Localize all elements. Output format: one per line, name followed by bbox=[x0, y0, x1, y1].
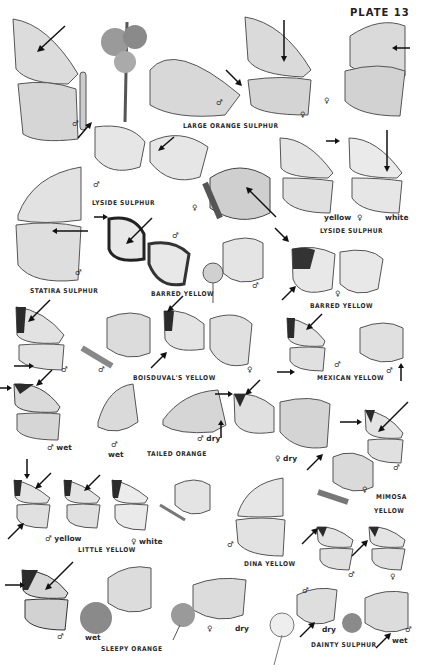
arrow-indicator bbox=[326, 138, 340, 144]
form-note: wet bbox=[85, 633, 101, 642]
butterfly-little-yellow-female bbox=[110, 478, 155, 530]
butterfly-little-yellow-side bbox=[160, 475, 212, 520]
butterfly-mexican-yellow-male-2 bbox=[345, 318, 405, 368]
arrow-indicator bbox=[158, 137, 174, 151]
butterfly-statira-sulphur bbox=[13, 165, 83, 285]
sex-note: ♂ bbox=[57, 632, 64, 641]
arrow-indicator bbox=[94, 214, 108, 220]
sex-note: ♂ bbox=[111, 440, 118, 449]
butterfly-large-orange-sulphur-female-2 bbox=[320, 16, 410, 116]
species-label-mexican-yellow: MEXICAN YELLOW bbox=[317, 374, 384, 382]
butterfly-sleepy-orange-wet bbox=[78, 563, 153, 638]
sex-note: ♀ bbox=[247, 365, 253, 374]
species-label-large-orange-sulphur: LARGE ORANGE SULPHUR bbox=[183, 122, 279, 130]
sex-form-note: ♀ dry bbox=[275, 454, 297, 463]
arrow-indicator bbox=[151, 352, 167, 368]
arrow-indicator bbox=[37, 26, 65, 52]
butterfly-dainty-sulphur-wet bbox=[340, 588, 410, 643]
arrow-indicator bbox=[28, 300, 50, 322]
arrow-indicator bbox=[245, 380, 260, 395]
arrow-indicator bbox=[24, 459, 30, 479]
arrow-indicator bbox=[0, 385, 12, 391]
arrow-indicator bbox=[282, 286, 296, 300]
sex-note: ♂ bbox=[216, 98, 223, 107]
arrow-indicator bbox=[52, 228, 88, 234]
species-label-lyside-sulphur: LYSIDE SULPHUR bbox=[320, 227, 383, 235]
sex-note: ♂ bbox=[348, 570, 355, 579]
arrow-indicator bbox=[376, 633, 391, 648]
sex-note: ♂ bbox=[72, 119, 79, 128]
sex-note: ♂ bbox=[75, 268, 82, 277]
arrow-indicator bbox=[384, 130, 390, 172]
butterfly-dainty-sulphur-female bbox=[367, 525, 409, 570]
species-label-statira-sulphur: STATIRA SULPHUR bbox=[30, 287, 98, 295]
arrow-indicator bbox=[8, 523, 24, 539]
arrow-indicator bbox=[398, 363, 404, 381]
arrow-indicator bbox=[340, 419, 362, 425]
sex-form-note: ♂ yellow bbox=[45, 534, 82, 543]
sex-note: ♀ bbox=[207, 624, 213, 633]
species-label-lyside-sulphur: LYSIDE SULPHUR bbox=[92, 199, 155, 207]
sex-note: ♂ bbox=[252, 281, 259, 290]
butterfly-boisduvals-wet-1 bbox=[12, 382, 74, 442]
butterfly-lyside-sulphur-male bbox=[90, 122, 210, 192]
sex-note: ♀ bbox=[357, 213, 363, 222]
arrow-indicator bbox=[126, 218, 152, 244]
arrow-indicator bbox=[302, 528, 318, 544]
sex-note: ♂ bbox=[61, 365, 68, 374]
sex-form-note: ♂ wet bbox=[47, 443, 72, 452]
sex-note: ♂ bbox=[334, 360, 341, 369]
arrow-indicator bbox=[277, 369, 295, 375]
arrow-indicator bbox=[246, 187, 276, 217]
arrow-indicator bbox=[378, 402, 408, 432]
form-note: wet bbox=[108, 450, 124, 459]
arrow-indicator bbox=[307, 454, 323, 470]
butterfly-lyside-sulphur-white bbox=[347, 133, 407, 213]
sex-note: ♀ bbox=[300, 110, 306, 119]
butterfly-lyside-sulphur-yellow bbox=[278, 133, 338, 213]
form-note: yellow bbox=[324, 213, 351, 222]
arrow-indicator bbox=[226, 70, 242, 86]
sex-note: ♂ bbox=[393, 463, 400, 472]
species-label-barred-yellow: BARRED YELLOW bbox=[310, 302, 373, 310]
arrow-indicator bbox=[78, 122, 92, 138]
species-label-dina-yellow: DINA YELLOW bbox=[244, 560, 296, 568]
arrow-indicator bbox=[275, 228, 289, 242]
butterfly-boisduvals-female bbox=[162, 309, 254, 371]
sex-note: ♂ bbox=[386, 366, 393, 375]
species-label-dainty-sulphur: DAINTY SULPHUR bbox=[311, 641, 377, 649]
arrow-indicator bbox=[14, 363, 34, 369]
sex-note: ♂ bbox=[93, 180, 100, 189]
form-note: dry bbox=[322, 625, 336, 634]
sex-note: ♀ bbox=[390, 572, 396, 581]
butterfly-tailed-orange-female-dry bbox=[232, 392, 332, 452]
sex-note: ♂ bbox=[172, 231, 179, 240]
arrow-indicator bbox=[281, 20, 287, 62]
sex-note: ♂ bbox=[302, 586, 309, 595]
arrow-indicator bbox=[35, 473, 51, 489]
species-label-tailed-orange: TAILED ORANGE bbox=[147, 450, 207, 458]
arrow-indicator bbox=[5, 582, 25, 588]
arrow-indicator bbox=[300, 622, 315, 637]
species-label-mimosa-yellow: MIMOSA bbox=[376, 493, 407, 501]
arrow-indicator bbox=[84, 475, 100, 491]
species-label-mimosa-yellow: YELLOW bbox=[374, 507, 404, 515]
form-note: white bbox=[385, 213, 409, 222]
form-note: dry bbox=[235, 624, 249, 633]
sex-note: ♀ bbox=[324, 96, 330, 105]
sex-note: ♂ bbox=[98, 365, 105, 374]
sex-note: ♀ bbox=[335, 289, 341, 298]
butterfly-boisduvals-wet-2 bbox=[78, 382, 140, 440]
arrow-indicator bbox=[45, 562, 73, 590]
sex-note: ♀ bbox=[362, 485, 368, 494]
arrow-indicator bbox=[392, 45, 410, 51]
arrow-indicator bbox=[36, 370, 52, 386]
arrow-indicator bbox=[215, 391, 233, 397]
butterfly-dina-yellow-male bbox=[233, 478, 288, 556]
arrow-indicator bbox=[306, 314, 322, 330]
species-label-little-yellow: LITTLE YELLOW bbox=[78, 546, 136, 554]
species-label-barred-yellow: BARRED YELLOW bbox=[151, 290, 214, 298]
arrow-indicator bbox=[352, 540, 368, 556]
sex-form-note: ♂ dry bbox=[197, 434, 220, 443]
sex-note: ♀ bbox=[192, 203, 198, 212]
